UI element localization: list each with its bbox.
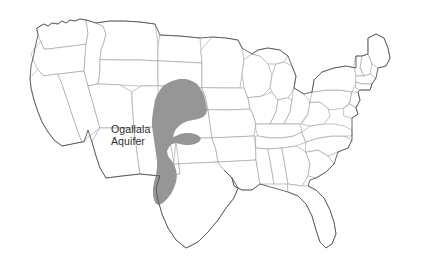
state-north-dakota <box>158 35 202 63</box>
state-iowa <box>202 88 250 110</box>
state-missouri <box>208 109 256 138</box>
aquifer-label-line-2: Aquifer <box>111 136 150 148</box>
state-arkansas <box>212 136 256 162</box>
aquifer-label-line-1: Ogallala <box>111 124 150 136</box>
state-minnesota <box>201 37 244 88</box>
state-new-york <box>312 66 360 92</box>
state-boundaries-group <box>30 19 390 248</box>
state-michigan-lower <box>270 62 296 100</box>
state-wyoming <box>98 60 158 86</box>
state-washington <box>37 19 88 49</box>
aquifer-label: Ogallala Aquifer <box>111 124 150 147</box>
us-map-svg <box>0 0 421 275</box>
state-montana <box>96 21 158 61</box>
ogallala-aquifer-map: Ogallala Aquifer <box>0 0 421 275</box>
